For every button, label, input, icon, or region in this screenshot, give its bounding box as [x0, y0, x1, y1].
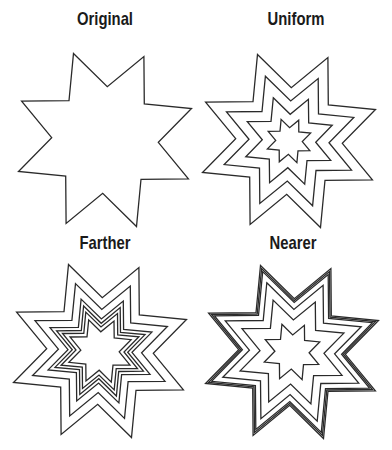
star-outline: [267, 119, 310, 162]
star-outline: [246, 98, 332, 184]
star-outline: [224, 76, 354, 206]
star-outline: [48, 299, 152, 403]
star-outline: [19, 54, 192, 227]
star-outline: [14, 265, 187, 438]
star-diagrams: [0, 0, 392, 450]
star-outline: [33, 284, 168, 419]
star-outline: [206, 266, 379, 439]
star-outline: [223, 283, 361, 421]
star-outline: [209, 269, 376, 436]
star-outline: [69, 320, 131, 382]
star-group-nearer: [206, 266, 379, 439]
star-group-uniform: [203, 55, 376, 228]
star-outline: [55, 306, 145, 396]
star-outline: [61, 312, 139, 390]
star-outline: [203, 55, 376, 228]
star-outline: [264, 324, 319, 379]
star-group-farther: [14, 265, 187, 438]
star-group-original: [19, 54, 192, 227]
